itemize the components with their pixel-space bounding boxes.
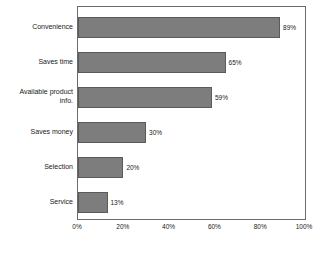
bar[interactable] <box>78 87 212 108</box>
bar-row: 30% <box>78 122 305 143</box>
bar-value-label: 65% <box>226 59 242 66</box>
bar-value-label: 59% <box>212 94 228 101</box>
bar-value-label: 89% <box>280 24 296 31</box>
bar-row: 13% <box>78 192 305 213</box>
category-label-saves-time: Saves time <box>0 57 73 66</box>
bar-chart: 89% 65% 59% 30% 20% 13% Convenience Sav <box>0 0 315 254</box>
bar[interactable] <box>78 52 226 73</box>
x-tick-label-100: 100% <box>296 224 313 231</box>
bar-value-label: 13% <box>108 199 124 206</box>
bar-value-label: 30% <box>146 129 162 136</box>
category-label-available-product-info: Available product info. <box>0 87 73 105</box>
category-label-convenience: Convenience <box>0 22 73 31</box>
bar-row: 59% <box>78 87 305 108</box>
bar-row: 89% <box>78 17 305 38</box>
bar-value-label: 20% <box>123 164 139 171</box>
x-tick-label-20: 20% <box>116 224 129 231</box>
bar[interactable] <box>78 17 280 38</box>
bar-row: 20% <box>78 157 305 178</box>
x-tick-label-80: 80% <box>254 224 267 231</box>
category-label-saves-money: Saves money <box>0 127 73 136</box>
x-tick-label-0: 0% <box>72 224 81 231</box>
category-label-service: Service <box>0 197 73 206</box>
bar[interactable] <box>78 122 146 143</box>
bar[interactable] <box>78 192 108 213</box>
bar-row: 65% <box>78 52 305 73</box>
plot-area: 89% 65% 59% 30% 20% 13% <box>77 6 306 220</box>
category-label-selection: Selection <box>0 162 73 171</box>
x-tick-label-60: 60% <box>208 224 221 231</box>
bar[interactable] <box>78 157 123 178</box>
x-tick-label-40: 40% <box>162 224 175 231</box>
